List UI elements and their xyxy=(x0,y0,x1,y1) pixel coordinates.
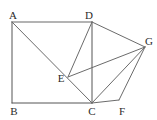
segment-AC xyxy=(12,22,92,103)
vertex-label-layer: ABCDEFG xyxy=(9,9,153,117)
vertex-label-E: E xyxy=(58,72,65,84)
segment-CF xyxy=(92,100,119,103)
vertex-label-C: C xyxy=(88,105,95,117)
geometry-canvas: ABCDEFG xyxy=(0,0,157,120)
vertex-label-A: A xyxy=(9,9,17,21)
segment-DG xyxy=(92,22,145,47)
vertex-label-G: G xyxy=(145,35,153,47)
vertex-label-D: D xyxy=(85,9,93,21)
segment-FG xyxy=(119,47,145,100)
vertex-label-F: F xyxy=(119,105,125,117)
vertex-label-B: B xyxy=(10,105,17,117)
segment-CG xyxy=(92,47,145,103)
geometry-figure: ABCDEFG xyxy=(0,0,157,120)
edge-layer xyxy=(12,22,145,103)
